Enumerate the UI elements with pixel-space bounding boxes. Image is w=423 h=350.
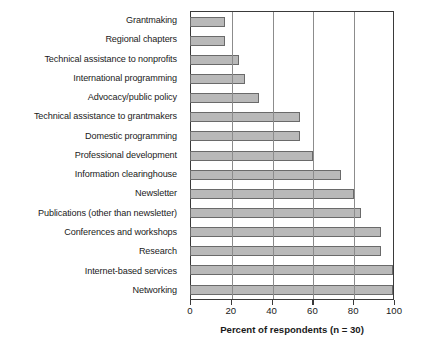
bar-row (191, 50, 393, 69)
category-label: Technical assistance to nonprofits (0, 50, 183, 69)
category-label: Internet-based services (0, 261, 183, 280)
category-label: Professional development (0, 146, 183, 165)
bar (190, 55, 239, 65)
bar (190, 265, 393, 275)
category-label: Technical assistance to grantmakers (0, 107, 183, 126)
bar-row (191, 31, 393, 50)
category-label: Advocacy/public policy (0, 88, 183, 107)
category-label: Domestic programming (0, 127, 183, 146)
bar-row (191, 165, 393, 184)
bar-row (191, 280, 393, 299)
bar (190, 246, 381, 256)
bar (190, 151, 313, 161)
bar (190, 131, 300, 141)
x-tick-label: 100 (386, 306, 402, 316)
bar-row (191, 184, 393, 203)
bar-row (191, 146, 393, 165)
category-label: Publications (other than newsletter) (0, 204, 183, 223)
bar (190, 93, 259, 103)
x-tick-label: 40 (266, 306, 277, 316)
category-label: Newsletter (0, 184, 183, 203)
bar-row (191, 108, 393, 127)
bar-row (191, 261, 393, 280)
bar-row (191, 12, 393, 31)
x-tick-label: 60 (307, 306, 318, 316)
bar-chart-figure: Grantmaking Regional chapters Technical … (0, 0, 423, 350)
bar (190, 189, 354, 199)
category-label: Research (0, 242, 183, 261)
bar-row (191, 223, 393, 242)
bar (190, 74, 245, 84)
category-label: Grantmaking (0, 11, 183, 30)
plot-area (190, 11, 394, 300)
category-label: Networking (0, 281, 183, 300)
bar (190, 112, 300, 122)
category-label: Information clearinghouse (0, 165, 183, 184)
x-tick-label: 80 (348, 306, 359, 316)
bar-row (191, 242, 393, 261)
bar (190, 227, 381, 237)
bar (190, 208, 361, 218)
bar (190, 36, 225, 46)
x-tick-label: 20 (225, 306, 236, 316)
x-tick-label: 0 (187, 306, 192, 316)
x-axis-title: Percent of respondents (n = 30) (190, 325, 394, 335)
category-label: Regional chapters (0, 30, 183, 49)
bar-row (191, 69, 393, 88)
bar (190, 17, 225, 27)
category-axis-labels: Grantmaking Regional chapters Technical … (0, 11, 183, 300)
bar (190, 285, 393, 295)
bar (190, 170, 341, 180)
bar-series (191, 12, 393, 299)
category-label: Conferences and workshops (0, 223, 183, 242)
bar-row (191, 127, 393, 146)
category-label: International programming (0, 69, 183, 88)
bar-row (191, 203, 393, 222)
bar-row (191, 89, 393, 108)
